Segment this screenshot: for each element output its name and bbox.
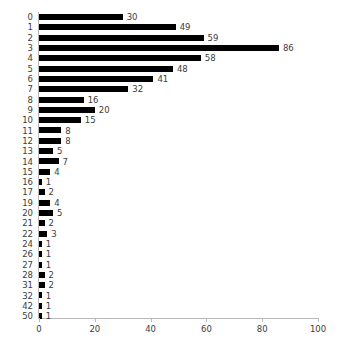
bar-row: 161 [0,177,338,187]
bar-row: 261 [0,249,338,259]
category-label: 1 [0,22,33,32]
value-label: 2 [49,270,54,280]
bar [39,210,53,216]
bar [39,189,45,195]
category-label: 4 [0,53,33,63]
bar [39,200,50,206]
bar [39,117,81,123]
bar [39,138,61,144]
category-label: 15 [0,167,33,177]
category-label: 22 [0,229,33,239]
category-label: 0 [0,12,33,22]
category-label: 11 [0,126,33,136]
bar-row: 458 [0,53,338,63]
bar [39,251,42,257]
bar [39,107,95,113]
value-label: 5 [57,146,62,156]
bar [39,179,42,185]
category-label: 5 [0,64,33,74]
value-label: 2 [49,218,54,228]
bar-row: 147 [0,156,338,166]
x-tick [206,318,207,322]
bar [39,282,45,288]
value-label: 4 [54,167,59,177]
bar-row: 259 [0,33,338,43]
bar-row: 282 [0,270,338,280]
value-label: 16 [88,95,99,105]
bar [39,220,45,226]
bar [39,158,59,164]
x-tick-label: 80 [257,324,268,334]
x-tick [262,318,263,322]
bar [39,35,204,41]
bar [39,86,128,92]
bar [39,55,201,61]
bar-chart: 0301492593864585486417328169201015118128… [0,0,338,361]
category-label: 31 [0,280,33,290]
bar-row: 732 [0,84,338,94]
value-label: 4 [54,198,59,208]
bar-row: 128 [0,136,338,146]
category-label: 12 [0,136,33,146]
category-label: 27 [0,260,33,270]
category-label: 14 [0,157,33,167]
bar-row: 241 [0,239,338,249]
bar-row: 386 [0,43,338,53]
category-label: 42 [0,301,33,311]
value-label: 32 [132,84,143,94]
category-label: 19 [0,198,33,208]
bar-row: 641 [0,74,338,84]
bar-row: 030 [0,12,338,22]
bar [39,272,45,278]
bar-row: 172 [0,187,338,197]
value-label: 41 [157,74,168,84]
bar [39,231,47,237]
bar [39,292,42,298]
bar-row: 149 [0,22,338,32]
x-tick [39,318,40,322]
bar-row: 548 [0,64,338,74]
bar [39,303,42,309]
value-label: 5 [57,208,62,218]
value-label: 49 [180,22,191,32]
category-label: 6 [0,74,33,84]
bar-row: 321 [0,290,338,300]
bar [39,127,61,133]
value-label: 1 [46,291,51,301]
value-label: 1 [46,177,51,187]
bar [39,76,153,82]
bar [39,97,84,103]
x-tick-label: 0 [36,324,41,334]
category-label: 13 [0,146,33,156]
category-label: 24 [0,239,33,249]
x-tick-label: 20 [89,324,100,334]
category-label: 3 [0,43,33,53]
category-label: 2 [0,33,33,43]
value-label: 1 [46,260,51,270]
category-label: 10 [0,115,33,125]
category-label: 26 [0,249,33,259]
x-tick [151,318,152,322]
category-label: 8 [0,95,33,105]
bar [39,24,176,30]
category-label: 7 [0,84,33,94]
value-label: 59 [208,33,219,43]
bar-row: 271 [0,260,338,270]
value-label: 1 [46,249,51,259]
bar-row: 205 [0,208,338,218]
value-label: 58 [205,53,216,63]
bar-row: 1015 [0,115,338,125]
bar-row: 194 [0,198,338,208]
bar-row: 118 [0,125,338,135]
x-tick-label: 60 [201,324,212,334]
value-label: 15 [85,115,96,125]
x-tick [318,318,319,322]
x-tick-label: 100 [310,324,326,334]
bar-row: 135 [0,146,338,156]
value-label: 8 [65,136,70,146]
bar [39,14,123,20]
bar-row: 816 [0,95,338,105]
bar-row: 154 [0,167,338,177]
category-label: 21 [0,218,33,228]
bar [39,148,53,154]
